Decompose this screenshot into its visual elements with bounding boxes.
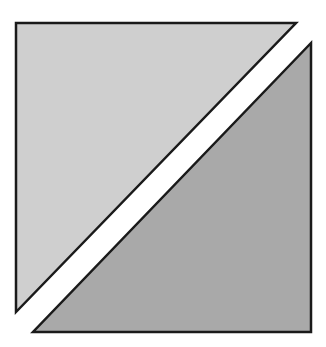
diagram-canvas: [0, 0, 326, 347]
